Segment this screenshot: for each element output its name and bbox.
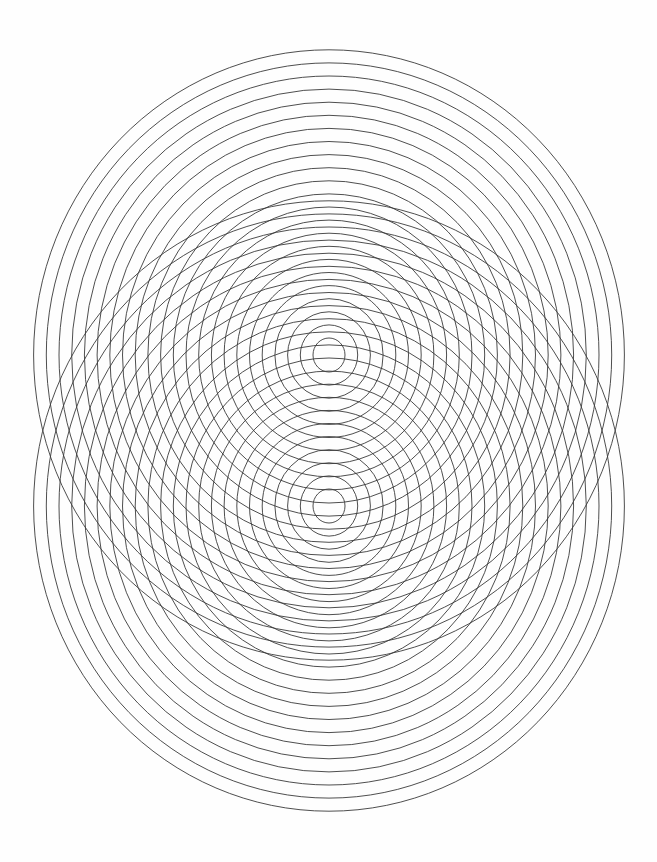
ellipse-pattern-canvas [0,0,657,862]
artboard [0,0,657,862]
